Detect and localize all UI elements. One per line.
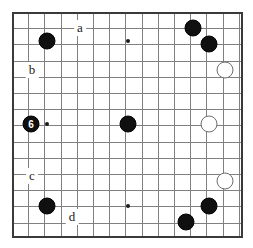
grid-line-vertical (93, 12, 94, 236)
black-stone[interactable] (120, 116, 137, 133)
star-point (126, 204, 130, 208)
star-point (126, 39, 130, 43)
grid-line-vertical (239, 12, 240, 236)
white-stone[interactable] (217, 62, 234, 79)
go-board-diagram: 6abcd (0, 0, 253, 248)
black-stone[interactable] (185, 20, 202, 37)
grid-line-vertical (174, 12, 175, 236)
board-border-top (12, 12, 241, 14)
board-surface: 6abcd (0, 0, 253, 248)
grid-line-vertical (223, 12, 224, 236)
board-border-bottom (12, 236, 241, 238)
grid-line-vertical (77, 12, 78, 236)
point-label-a: a (74, 20, 86, 36)
board-border-right (241, 12, 243, 238)
grid-line-vertical (190, 12, 191, 236)
grid-line-vertical (158, 12, 159, 236)
marker-dot (45, 122, 49, 126)
grid-line-vertical (61, 12, 62, 236)
point-label-d: d (66, 209, 79, 225)
point-label-b: b (26, 62, 39, 78)
white-stone[interactable] (201, 116, 218, 133)
board-border-left (12, 12, 14, 236)
grid-line-vertical (109, 12, 110, 236)
point-label-c: c (26, 168, 38, 184)
black-stone[interactable]: 6 (23, 116, 40, 133)
black-stone[interactable] (201, 36, 218, 53)
stone-move-number: 6 (28, 119, 34, 129)
black-stone[interactable] (178, 214, 195, 231)
white-stone[interactable] (217, 173, 234, 190)
black-stone[interactable] (39, 198, 56, 215)
black-stone[interactable] (201, 198, 218, 215)
black-stone[interactable] (39, 33, 56, 50)
grid-line-vertical (142, 12, 143, 236)
